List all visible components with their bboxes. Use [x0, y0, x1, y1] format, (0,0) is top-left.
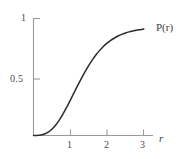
- figure-container: 1 0.5 1 2 3 r P(r): [0, 0, 183, 159]
- data-curve-p-of-r: [34, 29, 144, 135]
- x-axis-name-label: r: [159, 133, 163, 144]
- x-axis-tick-label-3: 3: [140, 140, 145, 150]
- x-axis-tick-label-2: 2: [104, 140, 109, 150]
- y-axis-tick-label-1: 1: [21, 13, 26, 23]
- x-axis-tick-label-1: 1: [67, 140, 72, 150]
- y-axis-tick-label-0-5: 0.5: [10, 74, 23, 84]
- curve-label-p-of-r: P(r): [156, 22, 173, 33]
